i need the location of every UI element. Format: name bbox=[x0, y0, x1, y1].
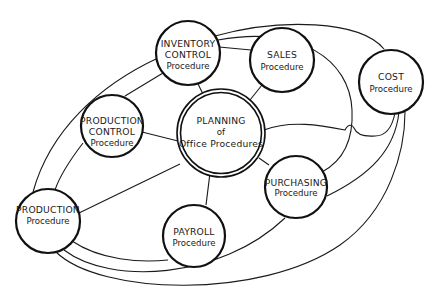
cost-line2: Procedure bbox=[369, 84, 412, 94]
node-purchasing: PURCHASING Procedure bbox=[265, 156, 327, 218]
planning-title: PLANNING bbox=[196, 115, 245, 126]
planning-subtitle: Office Procedures bbox=[179, 138, 263, 149]
edge-inventory-prodcontrol bbox=[125, 73, 163, 96]
inventory-control-line2: CONTROL bbox=[165, 49, 212, 60]
production-control-line3: Procedure bbox=[90, 138, 133, 148]
node-payroll: PAYROLL Procedure bbox=[163, 205, 225, 267]
edge-planning-cost bbox=[264, 113, 395, 136]
cost-circle bbox=[359, 50, 423, 114]
inventory-control-line1: INVENTORY bbox=[161, 38, 216, 49]
edge-prodcontrol-planning bbox=[142, 132, 178, 141]
planning-of: of bbox=[217, 127, 226, 137]
payroll-line2: Procedure bbox=[172, 238, 215, 248]
production-control-line1: PRODUCTION bbox=[80, 115, 144, 126]
sales-line1: SALES bbox=[267, 49, 297, 60]
edge-purchasing-cost bbox=[327, 112, 399, 196]
edge-production-planning bbox=[79, 164, 180, 213]
node-inventory-control: INVENTORY CONTROL Procedure bbox=[156, 21, 220, 85]
payroll-line1: PAYROLL bbox=[173, 226, 215, 237]
edge-prodcontrol-production bbox=[55, 143, 83, 190]
edge-planning-payroll bbox=[206, 173, 210, 205]
node-production: PRODUCTION Procedure bbox=[16, 189, 80, 253]
node-production-control: PRODUCTION CONTROL Procedure bbox=[80, 95, 144, 157]
node-planning: PLANNING of Office Procedures bbox=[177, 89, 265, 177]
production-line2: Procedure bbox=[26, 216, 69, 226]
node-sales: SALES Procedure bbox=[250, 28, 314, 92]
sales-line2: Procedure bbox=[260, 62, 303, 72]
procedures-network-diagram: PLANNING of Office Procedures INVENTORY … bbox=[0, 0, 442, 293]
inventory-control-line3: Procedure bbox=[166, 61, 209, 71]
purchasing-line1: PURCHASING bbox=[265, 177, 327, 188]
purchasing-line2: Procedure bbox=[274, 188, 317, 198]
production-line1: PRODUCTION bbox=[16, 204, 80, 215]
sales-circle bbox=[250, 28, 314, 92]
edge-inventory-sales bbox=[219, 47, 251, 50]
production-control-line2: CONTROL bbox=[89, 126, 136, 137]
node-cost: COST Procedure bbox=[359, 50, 423, 114]
cost-line1: COST bbox=[378, 71, 404, 82]
edge-production-payroll bbox=[72, 241, 168, 261]
edge-planning-purchasing bbox=[259, 158, 269, 165]
